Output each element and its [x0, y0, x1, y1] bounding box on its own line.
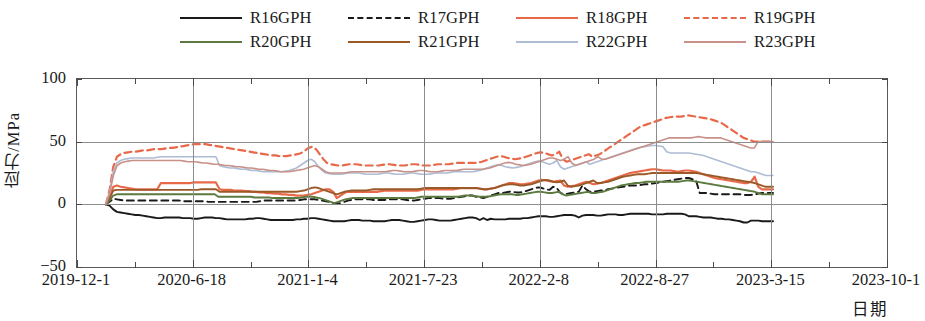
x-axis-tick [308, 78, 309, 86]
x-axis-tick [366, 262, 367, 268]
x-tick-label: 2020-6-18 [157, 272, 226, 289]
series-line-r20gph [106, 181, 773, 205]
y-tick-label: 0 [58, 195, 66, 212]
legend-label-r20gph: R20GPH [250, 34, 312, 51]
legend-swatch-r20gph [180, 35, 242, 49]
x-axis-tick [656, 260, 657, 268]
y-tick-label: 100 [41, 70, 66, 87]
legend-item-r17gph[interactable]: R17GPH [348, 10, 516, 27]
plot-clip [77, 79, 887, 267]
legend-row-1: R16GPH R17GPH R18GPH R19GPH [0, 6, 925, 30]
x-axis-tick [424, 78, 425, 86]
series-layer [77, 79, 887, 267]
x-axis-tick [193, 78, 194, 86]
legend-swatch-r23gph [684, 35, 746, 49]
x-axis-tick [482, 78, 483, 84]
legend-row-2: R20GPH R21GPH R22GPH R23GPH [0, 30, 925, 54]
x-axis-tick [771, 260, 772, 268]
x-axis-tick [598, 78, 599, 84]
legend-swatch-r21gph [348, 35, 410, 49]
y-axis-tick [76, 204, 82, 205]
series-line-r21gph [106, 173, 773, 204]
gridline-vertical [771, 79, 772, 267]
legend-item-r16gph[interactable]: R16GPH [180, 10, 348, 27]
legend-label-r19gph: R19GPH [754, 10, 816, 27]
x-axis-tick [829, 78, 830, 84]
x-axis-tick [193, 260, 194, 268]
legend-label-r18gph: R18GPH [586, 10, 648, 27]
legend-swatch-r19gph [684, 11, 746, 25]
series-line-r18gph [106, 169, 773, 204]
x-axis-tick [135, 262, 136, 268]
y-axis-tick [76, 142, 82, 143]
x-tick-label: 2021-7-23 [389, 272, 458, 289]
legend-swatch-r16gph [180, 11, 242, 25]
gridline-horizontal [77, 204, 887, 205]
x-tick-label: 2023-10-1 [852, 272, 921, 289]
series-line-r22gph [106, 145, 773, 204]
y-tick-label: 50 [50, 132, 67, 149]
x-axis-tick [366, 78, 367, 84]
y-axis-tick [882, 267, 888, 268]
legend-item-r19gph[interactable]: R19GPH [684, 10, 852, 27]
x-axis-title: 日期 [852, 296, 888, 320]
x-axis-tick [424, 260, 425, 268]
x-axis-tick [598, 262, 599, 268]
y-axis-title: 应力/MPa [2, 112, 26, 188]
x-axis-tick [308, 260, 309, 268]
x-tick-label: 2021-1-4 [277, 272, 338, 289]
x-tick-label: 2022-2-8 [509, 272, 570, 289]
legend-label-r22gph: R22GPH [586, 34, 648, 51]
gridline-vertical [540, 79, 541, 267]
gridline-horizontal [77, 142, 887, 143]
series-line-r16gph [106, 204, 773, 222]
x-axis-tick [713, 262, 714, 268]
legend-item-r18gph[interactable]: R18GPH [516, 10, 684, 27]
chart-legend: R16GPH R17GPH R18GPH R19GPH R20GPH [0, 4, 925, 56]
x-axis-tick [656, 78, 657, 86]
legend-item-r22gph[interactable]: R22GPH [516, 34, 684, 51]
y-axis-tick [76, 267, 82, 268]
legend-item-r23gph[interactable]: R23GPH [684, 34, 852, 51]
legend-item-r20gph[interactable]: R20GPH [180, 34, 348, 51]
y-axis-tick [882, 79, 888, 80]
legend-swatch-r17gph [348, 11, 410, 25]
legend-label-r23gph: R23GPH [754, 34, 816, 51]
x-axis-tick [482, 262, 483, 268]
gridline-vertical [656, 79, 657, 267]
plot-area [76, 78, 888, 268]
x-axis-tick [540, 260, 541, 268]
x-tick-label: 2022-8-27 [620, 272, 689, 289]
legend-swatch-r18gph [516, 11, 578, 25]
x-axis-tick [251, 78, 252, 84]
x-axis-tick [135, 78, 136, 84]
y-axis-tick [882, 204, 888, 205]
x-axis-labels: 2019-12-12020-6-182021-1-42021-7-232022-… [0, 272, 925, 296]
stress-time-series-chart: R16GPH R17GPH R18GPH R19GPH R20GPH [0, 0, 925, 321]
x-tick-label: 2023-3-15 [736, 272, 805, 289]
gridline-vertical [308, 79, 309, 267]
series-line-r19gph [106, 115, 773, 204]
x-axis-tick [540, 78, 541, 86]
x-axis-tick [713, 78, 714, 84]
y-axis-tick [76, 79, 82, 80]
legend-item-r21gph[interactable]: R21GPH [348, 34, 516, 51]
legend-label-r21gph: R21GPH [418, 34, 480, 51]
x-axis-tick [829, 262, 830, 268]
x-tick-label: 2019-12-1 [42, 272, 111, 289]
legend-swatch-r22gph [516, 35, 578, 49]
x-axis-tick [771, 78, 772, 86]
y-axis-tick [882, 142, 888, 143]
legend-label-r17gph: R17GPH [418, 10, 480, 27]
gridline-vertical [424, 79, 425, 267]
x-axis-tick [251, 262, 252, 268]
gridline-vertical [193, 79, 194, 267]
legend-label-r16gph: R16GPH [250, 10, 312, 27]
